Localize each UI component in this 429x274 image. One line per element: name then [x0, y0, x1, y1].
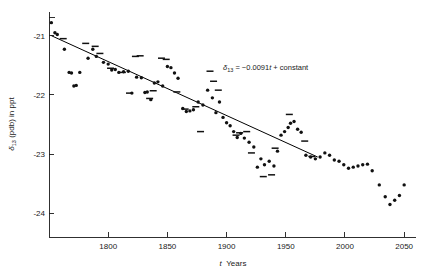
data-point-dot — [176, 77, 179, 80]
data-point-dot — [56, 33, 59, 36]
data-point-dot — [259, 157, 262, 160]
data-point-dot — [236, 136, 239, 139]
data-point-dot — [135, 75, 138, 78]
x-tick-label: 1850 — [158, 242, 176, 251]
data-point-dot — [296, 128, 299, 131]
data-point-dot — [356, 164, 359, 167]
data-point-dot — [286, 126, 289, 129]
data-point-dot — [388, 203, 391, 206]
data-point-dot — [75, 84, 78, 87]
y-tick-label: -22 — [33, 91, 45, 100]
data-point-dot — [268, 160, 271, 163]
y-axis-ticks: -21-22-23-24 — [33, 32, 54, 219]
data-point-dot — [292, 120, 295, 123]
data-point-dot — [361, 163, 364, 166]
data-series-dots — [50, 21, 406, 206]
equation-text: δ13 = −0.0091t + constant — [223, 63, 309, 73]
data-point-dot — [196, 100, 199, 103]
data-point-dot — [342, 163, 345, 166]
x-tick-label: 1900 — [218, 242, 236, 251]
data-point-dot — [211, 96, 214, 99]
data-point-dot — [78, 71, 81, 74]
data-point-dot — [232, 130, 235, 133]
data-point-dot — [228, 124, 231, 127]
data-point-dot — [140, 76, 143, 79]
x-axis-title: t Years — [220, 259, 247, 268]
data-point-dot — [347, 167, 350, 170]
data-point-dot — [272, 164, 275, 167]
data-point-dot — [50, 21, 53, 24]
x-tick-label: 1800 — [99, 242, 117, 251]
data-point-dot — [173, 71, 176, 74]
data-point-dot — [352, 165, 355, 168]
data-point-dot — [279, 133, 282, 136]
data-point-dot — [289, 122, 292, 125]
data-point-dot — [398, 194, 401, 197]
data-point-dot — [283, 130, 286, 133]
regression-fit-line — [51, 36, 317, 157]
data-point-dot — [402, 183, 405, 186]
data-point-dot — [156, 80, 159, 83]
data-point-dot — [188, 109, 191, 112]
data-point-dot — [114, 68, 117, 71]
data-point-dot — [366, 162, 369, 165]
data-point-dot — [252, 145, 255, 148]
equation-annotation: δ13 = −0.0091t + constant — [223, 63, 309, 73]
y-tick-label: -21 — [33, 32, 45, 41]
axis-labels: t Years δ13 (pdb) in ppt — [7, 97, 246, 268]
data-point-dot — [91, 48, 94, 51]
data-point-dot — [206, 88, 209, 91]
data-point-dot — [263, 163, 266, 166]
y-axis-title: δ13 (pdb) in ppt — [7, 97, 17, 151]
data-point-dot — [153, 81, 156, 84]
data-point-dot — [166, 65, 169, 68]
fit-line-segment — [51, 36, 317, 157]
data-point-dot — [201, 103, 204, 106]
data-point-dot — [299, 130, 302, 133]
data-point-dot — [314, 157, 317, 160]
data-point-dot — [243, 136, 246, 139]
data-point-dot — [95, 55, 98, 58]
data-point-dot — [304, 154, 307, 157]
data-point-dot — [146, 90, 149, 93]
data-point-dot — [225, 121, 228, 124]
axes — [49, 12, 416, 237]
data-point-dot — [337, 160, 340, 163]
data-point-dot — [192, 108, 195, 111]
data-point-dot — [323, 151, 326, 154]
data-point-dot — [221, 116, 224, 119]
data-point-dot — [214, 111, 217, 114]
data-point-dot — [276, 149, 279, 152]
data-point-dot — [378, 183, 381, 186]
scatter-plot-svg: -21-22-23-24 180018501900195020002050 δ1… — [0, 0, 429, 274]
y-tick-label: -23 — [33, 150, 45, 159]
data-point-dot — [169, 66, 172, 69]
data-point-dot — [63, 48, 66, 51]
data-point-dot — [161, 84, 164, 87]
data-point-dot — [218, 100, 221, 103]
data-point-dot — [384, 195, 387, 198]
y-tick-label: -24 — [33, 209, 45, 218]
data-series-dashes — [60, 39, 316, 177]
data-point-dot — [393, 199, 396, 202]
data-point-dot — [86, 56, 89, 59]
data-point-dot — [70, 71, 73, 74]
data-point-dot — [256, 165, 259, 168]
data-point-dot — [318, 155, 321, 158]
data-point-dot — [127, 70, 130, 73]
x-tick-label: 2000 — [336, 242, 354, 251]
data-point-dot — [370, 169, 373, 172]
data-point-dot — [185, 110, 188, 113]
chart-figure: -21-22-23-24 180018501900195020002050 δ1… — [0, 0, 429, 274]
data-point-dot — [106, 62, 109, 65]
x-tick-label: 1950 — [277, 242, 295, 251]
data-point-dot — [333, 158, 336, 161]
x-tick-label: 2050 — [395, 242, 413, 251]
data-point-dot — [247, 141, 250, 144]
data-point-dot — [328, 154, 331, 157]
x-axis-ticks: 180018501900195020002050 — [99, 232, 413, 251]
data-point-dot — [102, 61, 105, 64]
